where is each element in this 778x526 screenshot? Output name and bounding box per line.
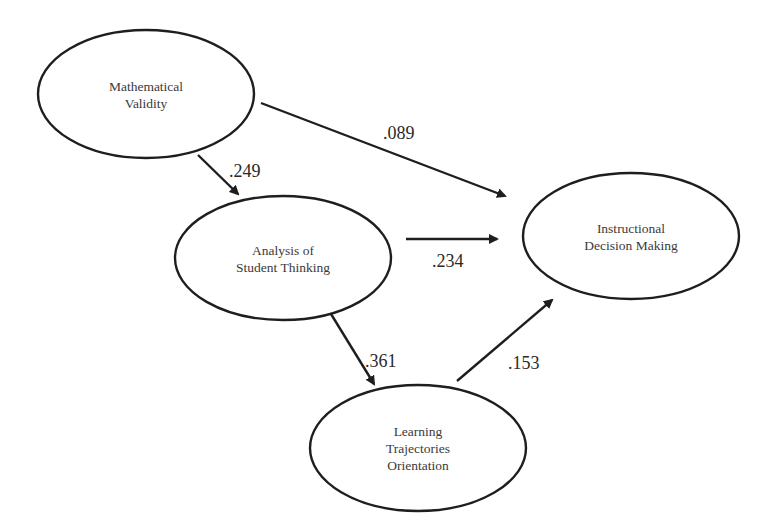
node-label-line: Student Thinking [236,260,330,275]
node-mv: MathematicalValidity [38,30,254,158]
node-label-line: Learning [394,424,443,439]
path-coefficient-label: .153 [508,353,540,373]
node-label-line: Decision Making [584,238,678,253]
node-ellipse [175,196,391,320]
path-coefficient-label: .089 [383,123,415,143]
path-coefficient-label: .234 [432,251,464,271]
node-label-line: Analysis of [252,243,314,258]
node-ellipse [38,30,254,158]
arrow-ast-to-lto [331,314,374,384]
nodes-layer: MathematicalValidityAnalysis ofStudent T… [38,30,739,511]
node-label-line: Mathematical [109,79,183,94]
path-coefficient-label: .361 [365,351,397,371]
path-coefficient-label: .249 [229,161,261,181]
arrow-mv-to-idm [261,103,505,196]
node-label-line: Instructional [597,221,665,236]
node-label-line: Validity [125,96,168,111]
node-idm: InstructionalDecision Making [523,173,739,299]
node-lto: LearningTrajectoriesOrientation [310,385,526,511]
node-label-line: Orientation [387,458,449,473]
path-diagram: MathematicalValidityAnalysis ofStudent T… [0,0,778,526]
node-label-line: Trajectories [386,441,450,456]
node-ast: Analysis ofStudent Thinking [175,196,391,320]
node-ellipse [523,173,739,299]
